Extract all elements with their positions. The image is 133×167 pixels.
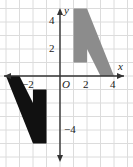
x-tick-label-4: 4 — [110, 79, 116, 90]
x-tick-label-neg2: −2 — [22, 79, 34, 90]
coordinate-plane-figure: x y O −2 2 4 4 2 −4 — [0, 0, 133, 167]
y-tick-label-neg4: −4 — [64, 124, 76, 135]
y-axis-label: y — [64, 5, 69, 16]
polygon-gray — [74, 9, 115, 77]
y-tick-label-2: 2 — [49, 43, 55, 54]
origin-label: O — [62, 79, 70, 90]
x-axis-arrow-right — [117, 73, 124, 79]
x-axis-label: x — [118, 61, 123, 72]
y-axis-arrow-up — [57, 8, 63, 15]
x-tick-label-2: 2 — [83, 79, 89, 90]
y-tick-label-4: 4 — [49, 15, 55, 26]
y-axis-arrow-down — [57, 155, 63, 162]
